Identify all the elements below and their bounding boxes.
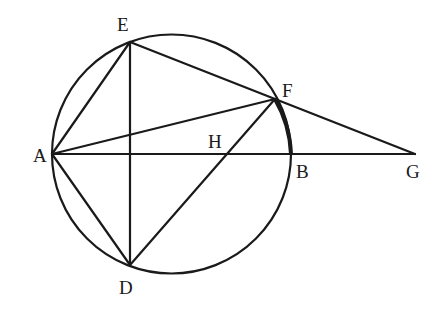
segment-fg: [275, 99, 415, 154]
label-point-f: F: [282, 80, 293, 101]
label-point-d: D: [119, 277, 133, 298]
label-point-e: E: [117, 14, 129, 35]
label-point-b: B: [296, 161, 309, 182]
label-point-h: H: [208, 131, 222, 152]
label-point-g: G: [406, 161, 420, 182]
segment-ef: [130, 42, 275, 99]
segment-ad: [52, 154, 130, 265]
geometry-diagram: AEDFHBG: [0, 0, 444, 311]
segments: [52, 42, 415, 265]
label-point-a: A: [33, 145, 47, 166]
emphasized-arc-fb: [275, 99, 291, 154]
